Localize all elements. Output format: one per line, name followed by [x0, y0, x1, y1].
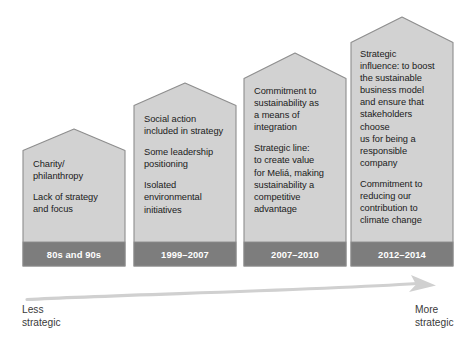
step-1: Charity/ philanthropy Lack of strategy a… — [22, 128, 126, 267]
step-3-body: Commitment to sustainability as a means … — [243, 85, 347, 215]
step-1-body: Charity/ philanthropy Lack of strategy a… — [22, 158, 126, 215]
progression-arrow-icon — [0, 270, 473, 320]
step-4-body: Strategic influence: to boost the sustai… — [350, 48, 454, 226]
axis-label-less-strategic: Less strategic — [22, 303, 61, 330]
step-3-period-band: 2007–2010 — [243, 242, 347, 266]
step-3: Commitment to sustainability as a means … — [243, 52, 347, 267]
step-4-period-band: 2012–2014 — [350, 242, 454, 266]
step-2-period-label: 1999–2007 — [161, 249, 209, 260]
step-4-paragraph-2: Commitment to reducing our contribution … — [360, 178, 444, 226]
step-2-paragraph-2: Some leadership positioning — [144, 146, 226, 170]
step-1-period-label: 80s and 90s — [47, 249, 101, 260]
step-2: Social action included in strategy Some … — [133, 82, 237, 267]
diagram-canvas: Charity/ philanthropy Lack of strategy a… — [0, 0, 473, 351]
step-2-paragraph-3: Isolated environmental initiatives — [144, 179, 226, 215]
step-4-period-label: 2012–2014 — [378, 249, 426, 260]
step-3-paragraph-2: Strategic line: to create value for Meli… — [254, 142, 336, 215]
step-3-period-label: 2007–2010 — [271, 249, 319, 260]
step-2-paragraph-1: Social action included in strategy — [144, 113, 226, 137]
step-2-body: Social action included in strategy Some … — [133, 113, 237, 216]
step-1-paragraph-1: Charity/ philanthropy — [33, 158, 115, 182]
step-4-paragraph-1: Strategic influence: to boost the sustai… — [360, 48, 444, 169]
step-2-period-band: 1999–2007 — [133, 242, 237, 266]
axis-label-more-strategic: More strategic — [415, 303, 454, 330]
step-3-paragraph-1: Commitment to sustainability as a means … — [254, 85, 336, 133]
step-1-period-band: 80s and 90s — [22, 242, 126, 266]
step-1-paragraph-2: Lack of strategy and focus — [33, 191, 115, 215]
step-4: Strategic influence: to boost the sustai… — [350, 16, 454, 267]
